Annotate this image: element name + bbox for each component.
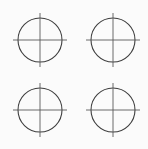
mark-bottom-left <box>13 83 67 137</box>
registration-marks-group <box>13 13 140 137</box>
mark-top-left <box>13 13 67 67</box>
registration-marks-svg <box>0 0 148 149</box>
mark-bottom-right <box>86 83 140 137</box>
mark-top-right <box>86 13 140 67</box>
registration-mark-canvas <box>0 0 148 149</box>
